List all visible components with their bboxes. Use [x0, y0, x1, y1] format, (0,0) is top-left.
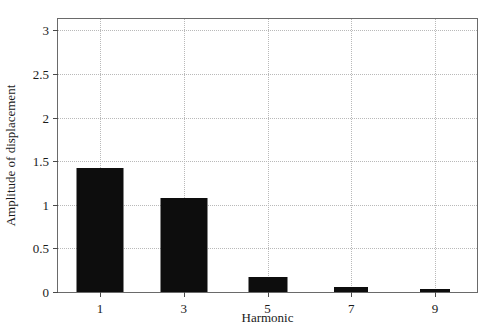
y-axis-tick	[53, 292, 58, 293]
y-axis-tick	[53, 205, 58, 206]
y-axis-title: Amplitude of displacement	[0, 18, 22, 293]
y-axis-tick-label: 0.5	[33, 242, 49, 255]
y-axis-tick	[53, 248, 58, 249]
y-axis-tick-label: 1	[43, 198, 50, 211]
y-axis-tick-label: 2	[43, 111, 50, 124]
chart-figure: Amplitude of displacement 00.511.522.531…	[0, 0, 502, 335]
x-gridline	[268, 19, 269, 292]
x-gridline	[351, 19, 352, 292]
y-axis-tick	[53, 74, 58, 75]
y-axis-tick	[53, 161, 58, 162]
x-axis-tick	[100, 292, 101, 297]
bar	[248, 277, 287, 292]
y-axis-tick-label: 3	[43, 24, 50, 37]
y-axis-tick	[53, 30, 58, 31]
y-axis-tick-label: 0	[43, 286, 50, 299]
y-axis-tick	[53, 118, 58, 119]
plot-area: 00.511.522.5313579	[57, 18, 478, 293]
x-axis-title-text: Harmonic	[242, 310, 294, 325]
x-axis-tick	[435, 292, 436, 297]
bar	[420, 289, 450, 292]
bar	[334, 287, 368, 292]
y-axis-tick-label: 2.5	[33, 67, 49, 80]
y-axis-tick-label: 1.5	[33, 155, 49, 168]
x-axis-tick	[351, 292, 352, 297]
x-axis-tick	[184, 292, 185, 297]
bar	[76, 168, 123, 292]
bar	[160, 198, 207, 292]
y-axis-title-text: Amplitude of displacement	[5, 85, 18, 227]
x-axis-tick	[268, 292, 269, 297]
x-gridline	[435, 19, 436, 292]
x-axis-title: Harmonic	[57, 311, 478, 324]
